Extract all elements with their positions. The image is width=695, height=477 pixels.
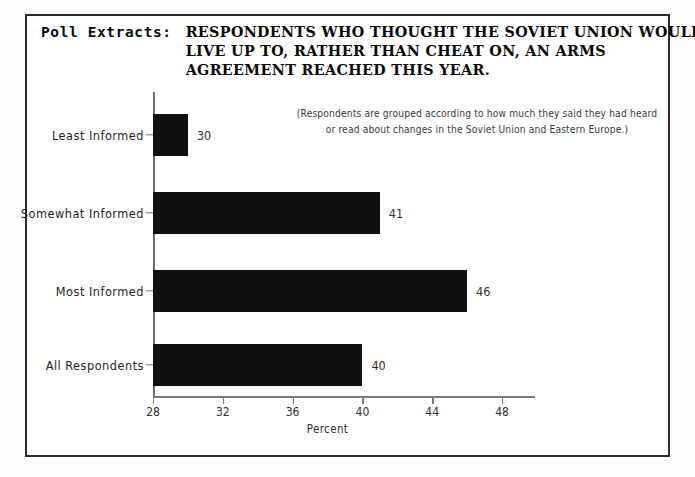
bar-chart-plot-area: Least Informed30Somewhat Informed41Most … bbox=[153, 92, 502, 398]
bar-value-label: 30 bbox=[197, 128, 211, 143]
bar-row: All Respondents40 bbox=[153, 344, 386, 386]
x-axis-tick-label: 44 bbox=[425, 405, 439, 419]
headline-line-1: RESPONDENTS WHO THOUGHT THE SOVIET UNION… bbox=[186, 23, 631, 42]
bar bbox=[153, 192, 380, 234]
x-axis-tick-label: 32 bbox=[216, 405, 230, 419]
bar-value-label: 46 bbox=[476, 284, 490, 299]
x-axis-tick bbox=[223, 398, 224, 404]
bar-row: Somewhat Informed41 bbox=[153, 192, 403, 234]
x-axis-tick bbox=[502, 398, 503, 404]
x-axis-tick bbox=[153, 398, 154, 404]
page-title: RESPONDENTS WHO THOUGHT THE SOVIET UNION… bbox=[186, 23, 631, 80]
x-axis-line bbox=[153, 396, 535, 398]
chart-frame: Poll Extracts: RESPONDENTS WHO THOUGHT T… bbox=[25, 14, 670, 457]
bar-row: Least Informed30 bbox=[153, 114, 211, 156]
bar-row: Most Informed46 bbox=[153, 270, 490, 312]
category-label: Most Informed bbox=[0, 284, 153, 299]
bar-value-label: 40 bbox=[371, 358, 385, 373]
x-axis-tick-label: 28 bbox=[146, 405, 160, 419]
scanned-page-background: Poll Extracts: RESPONDENTS WHO THOUGHT T… bbox=[0, 0, 695, 477]
poll-extracts-eyebrow: Poll Extracts: bbox=[41, 23, 172, 40]
headline-line-3: AGREEMENT REACHED THIS YEAR. bbox=[186, 61, 631, 80]
x-axis-tick-label: 36 bbox=[286, 405, 300, 419]
headline-line-2: LIVE UP TO, RATHER THAN CHEAT ON, AN ARM… bbox=[186, 42, 631, 61]
x-axis-tick bbox=[293, 398, 294, 404]
x-axis-tick bbox=[362, 398, 363, 404]
x-axis-tick-label: 48 bbox=[495, 405, 509, 419]
bar bbox=[153, 270, 467, 312]
bar bbox=[153, 114, 188, 156]
bar-value-label: 41 bbox=[389, 206, 403, 221]
category-label: Somewhat Informed bbox=[0, 206, 153, 221]
category-label: All Respondents bbox=[0, 358, 153, 373]
x-axis-tick-label: 40 bbox=[356, 405, 370, 419]
title-block: Poll Extracts: RESPONDENTS WHO THOUGHT T… bbox=[41, 23, 658, 80]
bar bbox=[153, 344, 362, 386]
x-axis-tick bbox=[432, 398, 433, 404]
category-label: Least Informed bbox=[0, 128, 153, 143]
x-axis-title: Percent bbox=[153, 422, 502, 436]
